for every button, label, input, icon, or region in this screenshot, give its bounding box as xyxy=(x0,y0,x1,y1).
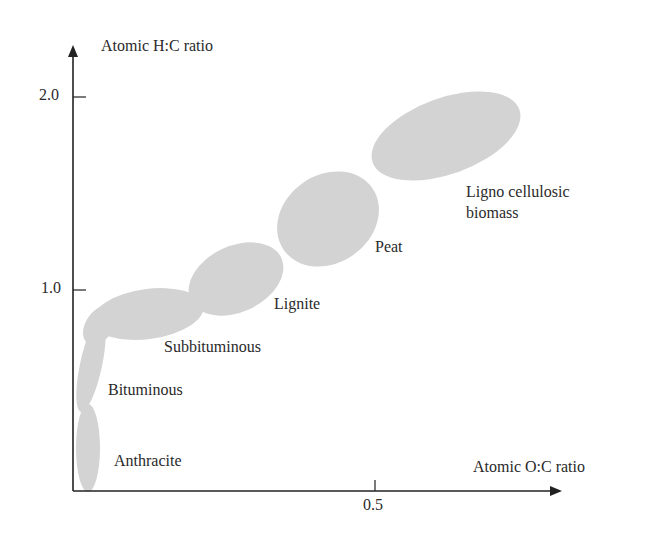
label-anthracite: Anthracite xyxy=(114,451,182,470)
label-subbituminous: Subbituminous xyxy=(164,337,261,356)
region-biomass xyxy=(360,74,533,199)
label-lignite: Lignite xyxy=(274,294,320,313)
x-tick-label-05: 0.5 xyxy=(363,496,383,514)
x-axis-arrow-icon xyxy=(550,486,562,496)
label-biomass-line1: Ligno cellulosic xyxy=(466,182,570,201)
y-tick-label-1: 1.0 xyxy=(41,279,61,297)
y-tick-label-2: 2.0 xyxy=(39,86,59,104)
van-krevelen-plot xyxy=(0,0,646,533)
region-anthracite xyxy=(76,404,100,492)
fuel-regions xyxy=(70,74,532,492)
label-peat: Peat xyxy=(375,237,403,256)
x-axis-label: Atomic O:C ratio xyxy=(473,457,585,476)
y-axis-arrow-icon xyxy=(68,45,78,57)
label-biomass-line2: biomass xyxy=(466,203,518,222)
y-axis-label: Atomic H:C ratio xyxy=(101,36,213,55)
label-bituminous: Bituminous xyxy=(108,380,183,399)
